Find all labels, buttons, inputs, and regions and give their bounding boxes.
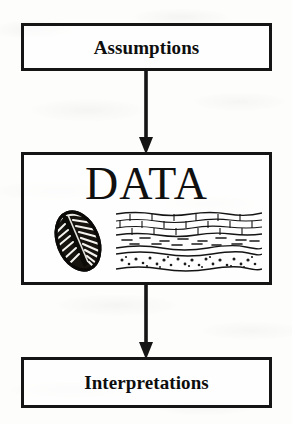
flow-node-data-label: DATA — [24, 159, 269, 209]
flow-node-interpretations[interactable]: Interpretations — [21, 357, 272, 408]
arrow-assumptions-to-data — [138, 69, 154, 155]
diagram-canvas: Assumptions DATA — [0, 0, 292, 424]
fossil-illustration — [48, 205, 108, 277]
flow-node-assumptions[interactable]: Assumptions — [21, 23, 272, 71]
flow-node-data[interactable]: DATA — [21, 152, 272, 285]
strata-illustration — [116, 211, 262, 273]
arrow-data-to-interpretations — [138, 283, 154, 360]
flow-node-assumptions-label: Assumptions — [24, 37, 269, 59]
flow-node-interpretations-label: Interpretations — [24, 372, 269, 394]
